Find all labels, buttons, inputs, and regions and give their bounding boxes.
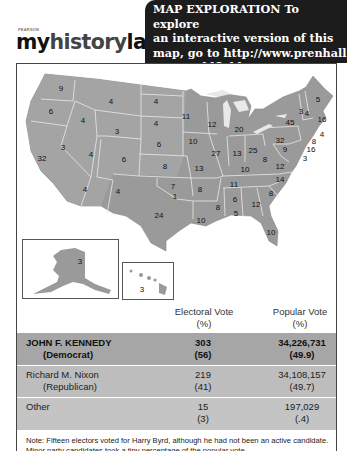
- candidate-name: Richard M. Nixon(Republican): [26, 369, 99, 393]
- state-label-tx: 24: [155, 211, 164, 220]
- alaska-inset: 3: [22, 239, 119, 299]
- promo-line: MAP EXPLORATION To explore: [153, 2, 347, 31]
- state-label-ok-byrd: 1: [173, 192, 177, 201]
- state-label-wv: 8: [263, 155, 267, 164]
- state-label-nd: 4: [154, 97, 158, 106]
- electoral-vote-label: Electoral Vote: [168, 306, 240, 318]
- popular-vote-header: Popular Vote (%): [264, 306, 336, 330]
- state-label-wi: 12: [208, 120, 217, 129]
- state-label-tn: 11: [230, 180, 238, 189]
- state-label-la: 10: [197, 216, 206, 225]
- brand-wordmark: myhistorylab: [16, 30, 160, 54]
- state-label-in: 13: [233, 149, 242, 158]
- footnote: Note: Fifteen electors voted for Harry B…: [26, 436, 332, 451]
- state-label-nj: 16: [307, 145, 316, 154]
- state-label-il: 27: [212, 149, 221, 158]
- state-label-nv: 3: [61, 143, 65, 152]
- state-label-pa: 32: [276, 136, 285, 145]
- candidate-name: Other: [26, 401, 50, 413]
- table-row-kennedy: JOHN F. KENNEDY(Democrat) 303(56) 34,226…: [17, 333, 336, 365]
- state-label-oh: 25: [249, 146, 258, 155]
- state-label-mn: 11: [182, 112, 190, 121]
- state-label-me: 5: [316, 95, 320, 104]
- hawaii-inset: 3: [122, 262, 174, 300]
- hawaii-shape: [123, 263, 173, 299]
- popular-vote-label: Popular Vote: [264, 306, 336, 318]
- state-label-al: 6: [233, 195, 237, 204]
- state-label-ri: 4: [320, 130, 324, 139]
- electoral-vote-cell: 15(3): [187, 401, 219, 425]
- electoral-vote-cell: 219(41): [187, 369, 219, 393]
- popular-vote-cell: 34,226,731(49.9): [267, 337, 337, 361]
- popular-vote-cell: 34,108,157(49.7): [267, 369, 337, 393]
- candidate-party: (Republican): [26, 381, 99, 393]
- state-label-id: 4: [81, 116, 85, 125]
- state-label-al-byrd: 5: [234, 209, 238, 218]
- electoral-vote-unit: (%): [168, 318, 240, 330]
- alaska-shape: [23, 240, 118, 298]
- alaska-votes: 3: [78, 257, 82, 266]
- state-label-mo: 13: [195, 164, 204, 173]
- state-label-wa: 9: [59, 84, 63, 93]
- state-label-ny: 45: [286, 118, 295, 127]
- state-label-mt: 4: [109, 97, 113, 106]
- state-label-ky: 10: [241, 165, 250, 174]
- state-label-ma: 16: [318, 115, 327, 124]
- state-label-de: 3: [303, 154, 307, 163]
- hawaii-votes: 3: [140, 285, 144, 294]
- state-label-ar: 8: [198, 185, 202, 194]
- candidate-name: JOHN F. KENNEDY(Democrat): [26, 337, 112, 361]
- state-label-or: 6: [49, 107, 53, 116]
- myhistorylab-logo: PEARSON myhistorylab: [16, 24, 141, 52]
- state-label-nc: 14: [276, 175, 285, 184]
- state-label-ga: 12: [252, 200, 261, 209]
- state-label-ia: 10: [189, 137, 198, 146]
- map-exploration-banner: MAP EXPLORATION To explore an interactiv…: [145, 0, 347, 63]
- promo-line-link[interactable]: map, go to http://www.prenhall: [153, 46, 347, 61]
- brand-part-history: history: [50, 30, 127, 54]
- electoral-vote-cell: 303(56): [187, 337, 219, 361]
- state-label-ks: 8: [163, 162, 167, 171]
- state-label-sc: 8: [269, 189, 273, 198]
- promo-line: an interactive version of this: [153, 31, 347, 46]
- state-label-wy: 3: [115, 127, 119, 136]
- popular-vote-unit: (%): [264, 318, 336, 330]
- state-label-vt: 3: [299, 107, 303, 116]
- state-label-nm: 4: [116, 187, 120, 196]
- candidate-party: (Democrat): [26, 349, 112, 361]
- state-label-va: 12: [276, 162, 285, 171]
- state-label-ut: 4: [89, 150, 93, 159]
- state-label-ok: 7: [171, 182, 175, 191]
- brand-part-my: my: [16, 30, 50, 54]
- state-label-az: 4: [83, 185, 87, 194]
- state-label-fl: 10: [267, 228, 276, 237]
- state-label-md: 9: [283, 145, 287, 154]
- state-label-sd: 4: [154, 119, 158, 128]
- popular-vote-cell: 197,029(.4): [267, 401, 337, 425]
- table-row-other: Other 15(3) 197,029(.4): [17, 398, 336, 430]
- state-label-ca: 32: [38, 154, 47, 163]
- table-row-nixon: Richard M. Nixon(Republican) 219(41) 34,…: [17, 366, 336, 397]
- state-label-nh: 4: [305, 109, 309, 118]
- electoral-vote-header: Electoral Vote (%): [168, 306, 240, 330]
- state-label-ms: 8: [216, 203, 220, 212]
- state-label-ne: 6: [157, 140, 161, 149]
- state-label-co: 6: [122, 155, 126, 164]
- state-label-mi: 20: [235, 125, 244, 134]
